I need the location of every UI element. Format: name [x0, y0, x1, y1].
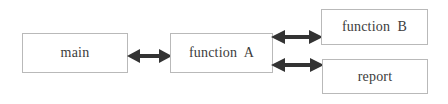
connector-function-a-to-report[interactable] [271, 55, 324, 75]
node-function-b[interactable]: function B [321, 9, 428, 45]
diagram-canvas: main function A [0, 0, 448, 104]
node-main[interactable]: main [22, 33, 128, 73]
node-function-a-label: function A [189, 46, 254, 60]
double-headed-arrow-icon [271, 30, 323, 44]
double-headed-arrow-icon [271, 58, 324, 72]
node-main-label: main [61, 46, 90, 60]
node-report[interactable]: report [322, 59, 428, 94]
node-function-b-label: function B [342, 20, 407, 34]
node-function-a[interactable]: function A [170, 33, 273, 73]
double-headed-arrow-icon [127, 49, 172, 63]
connector-function-a-to-function-b[interactable] [271, 27, 323, 47]
connector-main-to-function-a[interactable] [127, 46, 172, 66]
node-report-label: report [358, 70, 393, 84]
